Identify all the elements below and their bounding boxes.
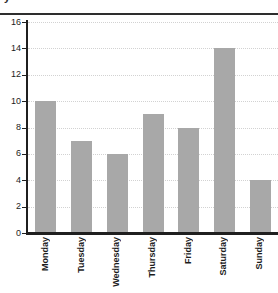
bar (214, 48, 235, 233)
x-axis-tick-label: Thursday (148, 237, 157, 278)
bar (35, 101, 56, 233)
gridline (28, 101, 278, 102)
y-axis-tick-label: 2 (3, 202, 21, 211)
x-axis-tick-label: Wednesday (112, 237, 121, 287)
x-axis-tick-label: Sunday (255, 237, 264, 270)
y-axis-tick-label: 4 (3, 176, 21, 185)
y-axis-tick-labels: 0246810121416 (0, 22, 21, 233)
bar (250, 180, 271, 233)
y-axis-tick-label: 0 (3, 229, 21, 238)
x-axis-tick-labels: MondayTuesdayWednesdayThursdayFridaySatu… (28, 237, 278, 293)
gridline (28, 22, 278, 23)
x-axis-tick-label: Saturday (219, 237, 228, 276)
bar (143, 114, 164, 233)
y-axis-tick-label: 14 (3, 44, 21, 53)
chart-screenshot: y 0246810121416 MondayTuesdayWednesdayTh… (0, 0, 278, 293)
x-axis-tick-label: Friday (184, 237, 193, 264)
header-divider-rule (0, 13, 278, 15)
x-axis-spine (26, 232, 278, 235)
y-axis-tick-label: 8 (3, 123, 21, 132)
gridline (28, 75, 278, 76)
y-axis-tick-label: 10 (3, 97, 21, 106)
y-axis-tick-label: 16 (3, 18, 21, 27)
bar (71, 141, 92, 233)
cropped-title-fragment: y (4, 0, 34, 3)
bar (178, 128, 199, 234)
x-axis-tick-label: Monday (41, 237, 50, 271)
x-axis-tick-label: Tuesday (77, 237, 86, 273)
bar-chart: 0246810121416 MondayTuesdayWednesdayThur… (0, 22, 278, 293)
gridline (28, 48, 278, 49)
y-axis-tick-label: 12 (3, 70, 21, 79)
bar (107, 154, 128, 233)
plot-area (28, 22, 278, 233)
y-axis-tick-label: 6 (3, 149, 21, 158)
